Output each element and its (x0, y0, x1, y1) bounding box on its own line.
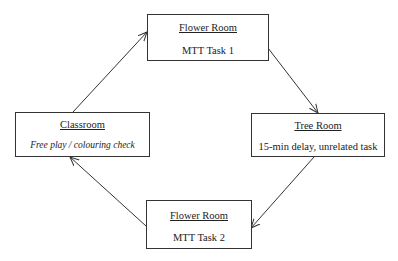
node-subtitle: MTT Task 2 (147, 232, 251, 243)
node-tree-room: Tree Room 15-min delay, unrelated task (251, 113, 385, 157)
node-subtitle: Free play / colouring check (16, 140, 149, 150)
arrow-classroom-to-flower1 (73, 32, 147, 112)
node-flower-room-1: Flower Room MTT Task 1 (147, 14, 269, 61)
node-classroom: Classroom Free play / colouring check (15, 112, 150, 157)
arrow-flower2-to-classroom (70, 157, 146, 226)
arrow-tree-to-flower2 (251, 157, 314, 228)
node-flower-room-2: Flower Room MTT Task 2 (146, 200, 252, 249)
arrow-flower1-to-tree (268, 48, 318, 113)
node-subtitle: 15-min delay, unrelated task (252, 141, 384, 152)
node-title: Flower Room (148, 22, 268, 33)
node-title: Classroom (16, 119, 149, 130)
node-title: Tree Room (252, 120, 384, 131)
node-subtitle: MTT Task 1 (148, 45, 268, 56)
node-title: Flower Room (147, 210, 251, 221)
